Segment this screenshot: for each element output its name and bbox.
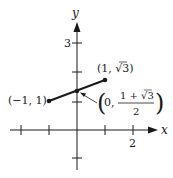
midpoint-denominator: 2: [133, 106, 139, 117]
midpoint-numerator: 1 + √3: [120, 90, 154, 101]
y-tick-label-3: 3: [64, 37, 71, 50]
x-axis-label: x: [161, 123, 168, 137]
x-axis-arrow-icon: [148, 127, 158, 134]
label-left-endpoint: (−1, 1): [8, 94, 47, 107]
point-midpoint: [75, 89, 80, 94]
point-right-endpoint: [103, 78, 108, 83]
x-tick-label-2: 2: [129, 137, 136, 150]
coordinate-diagram: x y 2 3 (−1, 1) (1, √3) ( 0, 1 + √3 2 ): [0, 0, 173, 178]
midpoint-label-prefix: 0,: [104, 96, 115, 109]
midpoint-close-paren: ): [155, 89, 164, 117]
label-right-endpoint: (1, √3): [97, 62, 134, 75]
y-axis-label: y: [71, 6, 79, 20]
point-left-endpoint: [47, 99, 52, 104]
y-axis-arrow-icon: [74, 22, 81, 32]
